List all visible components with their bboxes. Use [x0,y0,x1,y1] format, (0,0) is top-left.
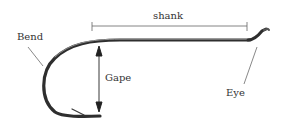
gape-arrow [96,46,102,112]
shank-label: shank [153,11,183,21]
eye-leader-line [244,47,257,84]
hook-illustration [0,0,284,133]
bend-label: Bend [17,32,43,42]
eye-label: Eye [226,88,245,98]
hook-body [44,29,269,117]
gape-label: Gape [105,73,131,83]
fish-hook-diagram: shank Bend Gape Eye [0,0,284,133]
bend-leader-line [28,47,43,66]
shank-bracket [92,22,247,31]
